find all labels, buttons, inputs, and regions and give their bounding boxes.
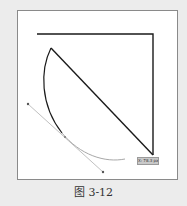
bezier-handle-start-point[interactable] [27, 103, 29, 105]
bezier-handle-end-point[interactable] [102, 171, 104, 173]
anchor-point[interactable] [64, 136, 66, 138]
cursor-coordinate-tooltip: X: 78.3 px [137, 157, 159, 165]
figure-caption: 图 3-12 [0, 183, 187, 199]
preview-curve [62, 133, 125, 160]
pen-tool-drawing [0, 0, 187, 206]
bezier-handle-line[interactable] [28, 104, 103, 172]
